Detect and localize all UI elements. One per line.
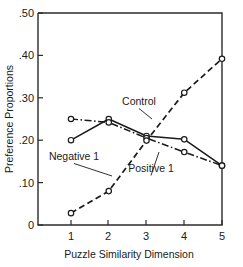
series-label: Positive 1 bbox=[128, 162, 174, 174]
y-tick-label: .20 bbox=[19, 134, 34, 146]
x-tick-label: 4 bbox=[181, 230, 187, 242]
data-point-marker bbox=[219, 56, 224, 61]
chart-svg: 0 .10 .20 .30 .40 .50 1 2 3 4 5 Puzzle S… bbox=[0, 0, 243, 267]
data-point-marker bbox=[182, 90, 187, 95]
x-tick-label: 3 bbox=[143, 230, 149, 242]
y-tick-label: .10 bbox=[19, 177, 34, 189]
x-axis-ticks bbox=[71, 220, 222, 225]
plot-frame bbox=[38, 13, 222, 225]
y-axis-title: Preference Proportions bbox=[3, 65, 15, 173]
x-tick-label: 5 bbox=[219, 230, 225, 242]
x-axis-title: Puzzle Similarity Dimension bbox=[64, 248, 194, 260]
data-point-marker bbox=[219, 163, 224, 168]
y-tick-label: .40 bbox=[19, 49, 34, 61]
series-annotations: ControlNegative 1Positive 1 bbox=[49, 95, 174, 176]
y-tick-label: .30 bbox=[19, 92, 34, 104]
x-tick-label: 2 bbox=[105, 230, 111, 242]
annotation-leader-line bbox=[74, 164, 112, 177]
y-axis-ticks bbox=[38, 13, 43, 225]
series-annotation: Negative 1 bbox=[49, 150, 112, 176]
series-label: Control bbox=[122, 95, 156, 107]
series-annotation: Control bbox=[122, 95, 156, 119]
series-label: Negative 1 bbox=[49, 150, 99, 162]
y-axis-tick-labels: 0 .10 .20 .30 .40 .50 bbox=[19, 7, 34, 231]
series-layer bbox=[68, 56, 224, 216]
data-point-marker bbox=[68, 210, 73, 215]
data-point-marker bbox=[182, 149, 187, 154]
data-point-marker bbox=[106, 120, 111, 125]
y-tick-label: 0 bbox=[28, 219, 34, 231]
data-point-marker bbox=[106, 188, 111, 193]
chart-figure: 0 .10 .20 .30 .40 .50 1 2 3 4 5 Puzzle S… bbox=[0, 0, 243, 267]
x-tick-label: 1 bbox=[68, 230, 74, 242]
x-axis-tick-labels: 1 2 3 4 5 bbox=[68, 230, 225, 242]
data-point-marker bbox=[144, 138, 149, 143]
data-point-marker bbox=[182, 137, 187, 142]
data-point-marker bbox=[68, 116, 73, 121]
data-point-marker bbox=[68, 138, 73, 143]
y-tick-label: .50 bbox=[19, 7, 34, 19]
annotation-leader-line bbox=[139, 109, 152, 120]
